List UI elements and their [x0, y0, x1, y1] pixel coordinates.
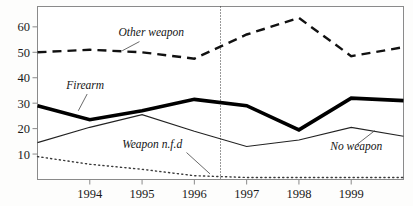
x-tick-label-1999: 1999 — [339, 187, 364, 201]
series-label-no-weapon: No weapon — [329, 140, 382, 153]
line-chart: 10 20 30 40 50 60 1994 1995 1996 1997 19… — [0, 0, 413, 206]
x-tick-label-1997: 1997 — [234, 187, 259, 201]
y-tick-label-40: 40 — [18, 71, 31, 85]
y-tick-label-30: 30 — [18, 97, 31, 111]
y-tick-label-60: 60 — [18, 20, 31, 34]
x-tick-label-1998: 1998 — [286, 187, 311, 201]
series-label-firearm: Firearm — [65, 79, 104, 91]
series-label-weapon-nfd: Weapon n.f.d — [122, 138, 182, 151]
x-tick-label-1994: 1994 — [77, 187, 103, 201]
y-tick-label-20: 20 — [18, 122, 31, 136]
series-label-other-weapon: Other weapon — [119, 26, 185, 39]
y-tick-label-10: 10 — [18, 148, 31, 162]
x-tick-label-1995: 1995 — [130, 187, 155, 201]
chart-canvas: 10 20 30 40 50 60 1994 1995 1996 1997 19… — [0, 0, 413, 206]
x-tick-label-1996: 1996 — [182, 187, 207, 201]
y-tick-label-50: 50 — [18, 46, 31, 60]
